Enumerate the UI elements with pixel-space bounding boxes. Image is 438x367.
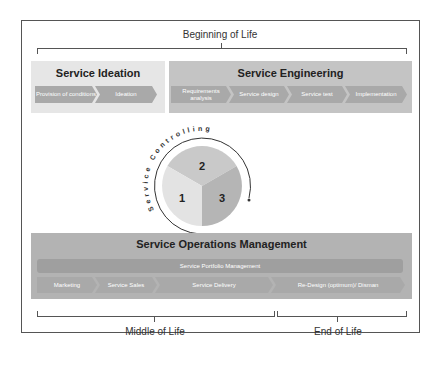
service-engineering-panel: Service Engineering Requirements analysi… xyxy=(169,61,412,113)
step-redesign-disman: Re-Design (optimum)/ Disman xyxy=(271,277,405,293)
segment-label-3: 3 xyxy=(219,192,225,204)
service-controlling-cycle: 1 2 3 Service Controlling xyxy=(140,120,260,240)
step-service-test: Service test xyxy=(287,86,347,103)
segment-label-2: 2 xyxy=(199,160,205,172)
segment-label-1: 1 xyxy=(179,192,185,204)
service-portfolio-management: Service Portfolio Management xyxy=(37,259,403,273)
step-service-design: Service design xyxy=(229,86,289,103)
service-ideation-title: Service Ideation xyxy=(31,67,165,79)
step-service-delivery: Service Delivery xyxy=(155,277,273,293)
step-ideation: Ideation xyxy=(95,86,157,103)
step-implementation: Implementation xyxy=(345,86,407,103)
phase-label-beginning: Beginning of Life xyxy=(160,29,280,40)
bracket-beginning xyxy=(37,48,407,54)
phase-label-end: End of Life xyxy=(283,326,393,337)
step-provision-of-conditions: Provision of conditions xyxy=(35,86,97,103)
step-service-sales: Service Sales xyxy=(95,277,157,293)
bracket-middle xyxy=(37,311,275,317)
step-requirements-analysis: Requirements analysis xyxy=(171,86,231,103)
service-ideation-panel: Service Ideation Provision of conditions… xyxy=(31,61,165,113)
service-operations-panel: Service Operations Management Service Po… xyxy=(31,233,412,299)
service-engineering-title: Service Engineering xyxy=(169,67,412,79)
bracket-end xyxy=(277,311,407,317)
cycle-arrow-head xyxy=(248,199,251,202)
bracket-end-tick xyxy=(337,317,338,322)
bracket-middle-tick xyxy=(154,317,155,322)
step-marketing: Marketing xyxy=(37,277,97,293)
service-operations-title: Service Operations Management xyxy=(31,238,412,250)
phase-label-middle: Middle of Life xyxy=(95,326,215,337)
bracket-beginning-tick xyxy=(221,43,222,48)
